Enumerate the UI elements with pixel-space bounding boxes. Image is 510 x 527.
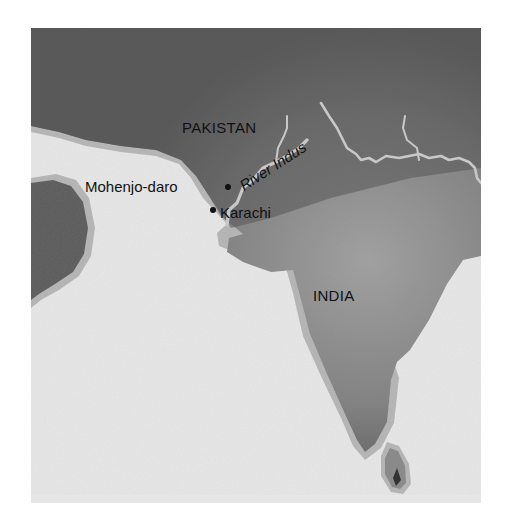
label-pakistan: PAKISTAN	[182, 120, 256, 135]
city-marker-karachi	[210, 207, 216, 213]
map-canvas	[31, 28, 481, 503]
map-frame: PAKISTAN INDIA Mohenjo-daro Karachi Rive…	[31, 28, 481, 503]
label-mohenjo-daro: Mohenjo-daro	[85, 179, 178, 194]
label-india: INDIA	[313, 288, 355, 303]
city-marker-mohenjo-daro	[225, 184, 231, 190]
label-karachi: Karachi	[220, 205, 271, 220]
